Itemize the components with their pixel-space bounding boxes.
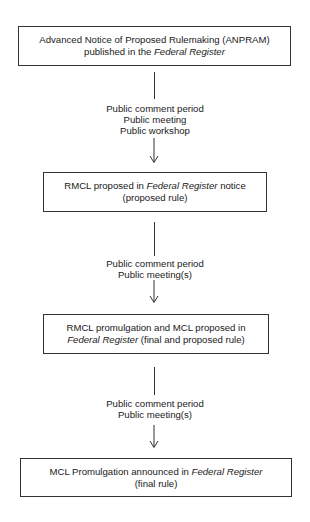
step-4-line-1: MCL Promulgation announced in Federal Re… — [21, 466, 291, 478]
transition-1-label: Public comment period Public meeting Pub… — [0, 103, 310, 136]
transition-3-item: Public comment period — [0, 398, 310, 409]
transition-2-item: Public comment period — [0, 258, 310, 269]
transition-1-item: Public comment period — [0, 103, 310, 114]
step-mcl-promulgation-box: MCL Promulgation announced in Federal Re… — [20, 458, 292, 497]
connector-line-2 — [154, 222, 155, 256]
arrow-down-icon — [148, 280, 160, 304]
step-3-line-1: RMCL promulgation and MCL proposed in — [44, 322, 268, 334]
step-rmcl-proposed-box: RMCL proposed in Federal Register notice… — [43, 172, 267, 212]
step-2-line-2: (proposed rule) — [44, 192, 266, 204]
transition-3-label: Public comment period Public meeting(s) — [0, 398, 310, 420]
transition-1-item: Public meeting — [0, 114, 310, 125]
step-3-line-2: Federal Register (final and proposed rul… — [44, 334, 268, 346]
transition-2-label: Public comment period Public meeting(s) — [0, 258, 310, 280]
step-1-line-1: Advanced Notice of Proposed Rulemaking (… — [19, 34, 290, 46]
step-2-line-1: RMCL proposed in Federal Register notice — [44, 180, 266, 192]
transition-1-item: Public workshop — [0, 125, 310, 136]
transition-3-item: Public meeting(s) — [0, 409, 310, 420]
connector-line-3 — [154, 367, 155, 395]
arrow-down-icon — [148, 425, 160, 449]
step-anpram-box: Advanced Notice of Proposed Rulemaking (… — [18, 26, 291, 66]
step-1-line-2: published in the Federal Register — [19, 46, 290, 58]
arrow-down-icon — [148, 138, 160, 164]
step-rmcl-promulgation-box: RMCL promulgation and MCL proposed in Fe… — [43, 314, 269, 354]
connector-line-1 — [154, 72, 155, 99]
transition-2-item: Public meeting(s) — [0, 269, 310, 280]
step-4-line-2: (final rule) — [21, 478, 291, 490]
